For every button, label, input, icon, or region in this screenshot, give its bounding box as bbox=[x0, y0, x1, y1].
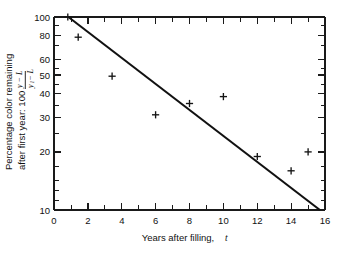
x-ticklabel: 16 bbox=[320, 215, 331, 226]
x-ticklabel: 8 bbox=[187, 215, 192, 226]
data-point bbox=[75, 34, 82, 41]
x-ticklabel: 6 bbox=[153, 215, 158, 226]
fraction-denominator-base: y bbox=[26, 84, 35, 89]
y-axis-title-line1: Percentage color remaining bbox=[3, 54, 14, 170]
data-point bbox=[152, 111, 159, 118]
x-ticklabel: 0 bbox=[51, 215, 56, 226]
semilog-scatter-chart: 100 80 60 50 40 30 20 10 0 2 4 6 8 10 12… bbox=[0, 0, 337, 254]
fraction-denominator-rest: − L bbox=[26, 68, 35, 80]
x-axis-title: Years after filling, t bbox=[142, 232, 228, 243]
data-point bbox=[220, 93, 227, 100]
y-ticklabel: 10 bbox=[39, 205, 50, 216]
y-ticklabel: 50 bbox=[39, 70, 50, 81]
x-axis-title-text: Years after filling, bbox=[142, 232, 215, 243]
x-ticklabel: 4 bbox=[119, 215, 124, 226]
x-axis-title-symbol: t bbox=[225, 233, 228, 243]
figure-container: 100 80 60 50 40 30 20 10 0 2 4 6 8 10 12… bbox=[0, 0, 337, 254]
fit-regression-line bbox=[68, 17, 320, 210]
y-axis-title: Percentage color remaining after first y… bbox=[3, 54, 35, 170]
data-point bbox=[109, 73, 116, 80]
y-ticklabel: 30 bbox=[39, 112, 50, 123]
x-ticklabel: 12 bbox=[252, 215, 263, 226]
y-axis-title-line2: after first year: 100 bbox=[16, 91, 27, 170]
y-axis-major-ticks bbox=[54, 17, 61, 210]
y-axis-right-ticks bbox=[318, 25, 325, 200]
x-axis-top-ticks bbox=[71, 17, 308, 24]
data-point bbox=[186, 100, 193, 107]
y-axis-title-fraction: y − L y 1 − L bbox=[15, 68, 35, 89]
y-ticklabel: 100 bbox=[34, 12, 50, 23]
x-ticklabel: 2 bbox=[85, 215, 90, 226]
x-axis-bottom-ticks bbox=[54, 203, 325, 210]
y-ticklabel: 40 bbox=[39, 88, 50, 99]
y-axis-ticklabels: 100 80 60 50 40 30 20 10 bbox=[34, 12, 50, 216]
y-ticklabel: 60 bbox=[39, 54, 50, 65]
x-ticklabel: 10 bbox=[218, 215, 229, 226]
data-point bbox=[305, 148, 312, 155]
plot-frame bbox=[54, 17, 325, 210]
x-axis-ticklabels: 0 2 4 6 8 10 12 14 16 bbox=[51, 215, 330, 226]
fraction-numerator: y − L bbox=[15, 70, 24, 89]
y-ticklabel: 80 bbox=[39, 30, 50, 41]
x-ticklabel: 14 bbox=[286, 215, 297, 226]
y-ticklabel: 20 bbox=[39, 146, 50, 157]
data-point-markers bbox=[64, 13, 312, 174]
data-point bbox=[288, 167, 295, 174]
